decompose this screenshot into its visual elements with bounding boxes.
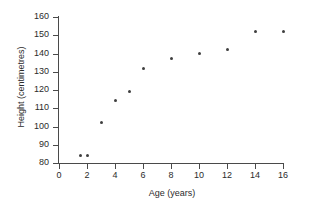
- x-tick-mark: [227, 164, 228, 169]
- data-point: [86, 154, 89, 157]
- y-tick-mark: [53, 145, 58, 146]
- y-tick-label: 100: [9, 122, 49, 131]
- x-tick-label: 14: [243, 171, 267, 180]
- data-point: [79, 154, 82, 157]
- y-tick-label: 90: [9, 140, 49, 149]
- y-tick-label: 80: [9, 158, 49, 167]
- x-tick-label: 2: [75, 171, 99, 180]
- x-tick-label: 8: [159, 171, 183, 180]
- data-point: [254, 30, 257, 33]
- x-tick-mark: [59, 164, 60, 169]
- x-tick-mark: [255, 164, 256, 169]
- y-tick-label: 110: [9, 103, 49, 112]
- y-axis-title: Height (centimetres): [16, 22, 26, 152]
- x-tick-mark: [115, 164, 116, 169]
- scatter-chart: 8090100110120130140150160 0246810121416 …: [0, 0, 317, 209]
- x-tick-mark: [171, 164, 172, 169]
- y-tick-label: 150: [9, 30, 49, 39]
- y-tick-label: 140: [9, 49, 49, 58]
- y-tick-mark: [53, 163, 58, 164]
- y-tick-label: 160: [9, 12, 49, 21]
- y-tick-mark: [53, 72, 58, 73]
- x-tick-mark: [199, 164, 200, 169]
- data-point: [128, 90, 131, 93]
- x-tick-label: 10: [187, 171, 211, 180]
- x-tick-label: 4: [103, 171, 127, 180]
- x-tick-label: 16: [271, 171, 295, 180]
- y-tick-mark: [53, 35, 58, 36]
- y-tick-mark: [53, 108, 58, 109]
- y-tick-mark: [53, 17, 58, 18]
- data-point: [198, 52, 201, 55]
- data-point: [142, 67, 145, 70]
- x-tick-label: 6: [131, 171, 155, 180]
- x-tick-mark: [283, 164, 284, 169]
- y-tick-label: 130: [9, 67, 49, 76]
- data-point: [282, 30, 285, 33]
- x-tick-mark: [87, 164, 88, 169]
- x-tick-label: 12: [215, 171, 239, 180]
- x-tick-mark: [143, 164, 144, 169]
- y-tick-mark: [53, 90, 58, 91]
- x-axis-title: Age (years): [59, 188, 285, 198]
- y-tick-label: 120: [9, 85, 49, 94]
- x-tick-label: 0: [47, 171, 71, 180]
- y-tick-mark: [53, 54, 58, 55]
- y-tick-mark: [53, 127, 58, 128]
- y-axis-line: [58, 16, 59, 164]
